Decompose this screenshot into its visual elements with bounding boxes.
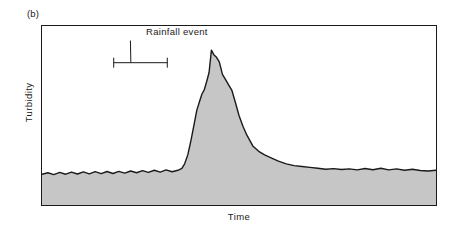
turbidity-area-fill xyxy=(42,50,436,205)
rainfall-event-annotation-label: Rainfall event xyxy=(146,26,208,37)
panel-label: (b) xyxy=(27,8,39,19)
chart-plot-area xyxy=(0,0,453,232)
series-group xyxy=(42,50,436,205)
x-axis-label: Time xyxy=(41,211,437,222)
rainfall-event-annotation-group xyxy=(114,41,168,68)
figure-panel-b: (b) Turbidity Time Rainfall event xyxy=(0,0,453,232)
y-axis-label: Turbidity xyxy=(23,68,34,138)
